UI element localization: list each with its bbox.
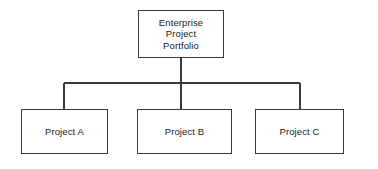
node-enterprise-project-portfolio[interactable]: Enterprise Project Portfolio <box>138 10 224 58</box>
node-project-a[interactable]: Project A <box>21 109 108 154</box>
node-project-a-label: Project A <box>42 126 87 138</box>
node-project-c[interactable]: Project C <box>255 109 344 154</box>
diagram-canvas: Enterprise Project Portfolio Project A P… <box>0 0 378 169</box>
node-project-b-label: Project B <box>162 126 207 138</box>
node-root-label: Enterprise Project Portfolio <box>156 17 206 52</box>
node-project-b[interactable]: Project B <box>137 109 232 154</box>
node-project-c-label: Project C <box>277 126 323 138</box>
